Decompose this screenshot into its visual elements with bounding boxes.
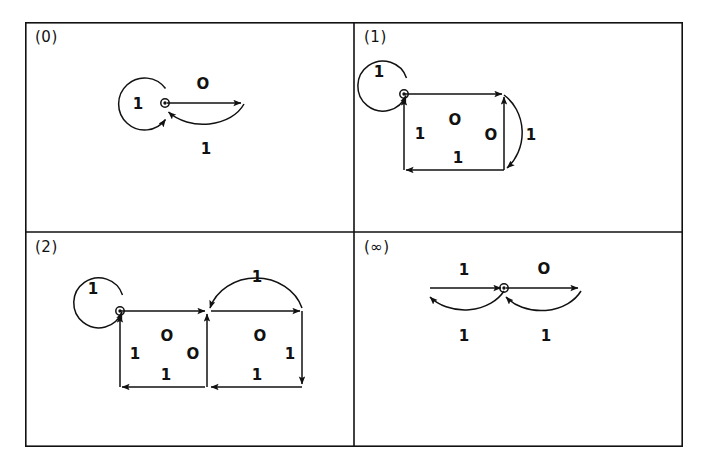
- label-selfloop-1: 1: [88, 280, 98, 298]
- label-arc-1: 1: [252, 268, 262, 286]
- panel-0: (0) 1 O 1: [25, 22, 354, 232]
- label-left-bottom-1: 1: [459, 327, 469, 345]
- panel-0-graph: 1 O 1: [25, 22, 354, 232]
- label-bottom-1: 1: [453, 149, 463, 167]
- label-top-right-O: O: [254, 327, 267, 345]
- edge-1-left-arc: [430, 291, 504, 310]
- edge-1-arc-right: [504, 95, 522, 168]
- figure-container: (0) 1 O 1 (1): [25, 22, 683, 447]
- panel-infinity: (∞) 1 O 1 1: [354, 232, 683, 447]
- label-inner-O: O: [485, 126, 498, 144]
- label-top-O: O: [449, 111, 462, 129]
- label-bottom-left-1: 1: [161, 366, 171, 384]
- label-right-bottom-1: 1: [541, 327, 551, 345]
- panel-1: (1) 1: [354, 22, 683, 232]
- label-middle-O: O: [187, 345, 200, 363]
- label-top-left-O: O: [161, 327, 174, 345]
- label-edge-O: O: [197, 75, 210, 93]
- panel-1-graph: 1 O 1 O 1 1: [354, 22, 683, 232]
- label-selfloop-1: 1: [374, 63, 384, 81]
- label-arc-1: 1: [526, 126, 536, 144]
- label-left-top-1: 1: [459, 261, 469, 279]
- panel-2-graph: 1 1 O O 1 O 1 1 1: [25, 232, 354, 447]
- label-left-1: 1: [415, 125, 425, 143]
- edge-1-arc-below: [169, 104, 245, 124]
- panel-infinity-graph: 1 O 1 1: [354, 232, 683, 447]
- label-right-1: 1: [285, 345, 295, 363]
- label-arc-1: 1: [201, 140, 211, 158]
- label-right-top-O: O: [538, 260, 551, 278]
- label-left-1: 1: [130, 345, 140, 363]
- edge-1-right-arc: [506, 291, 581, 311]
- label-bottom-right-1: 1: [252, 366, 262, 384]
- label-selfloop-1: 1: [133, 95, 143, 113]
- panel-2: (2): [25, 232, 354, 447]
